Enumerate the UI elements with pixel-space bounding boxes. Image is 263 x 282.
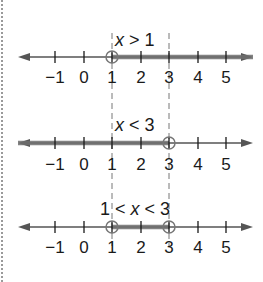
- inequality-label-x-greater-than-1: x > 1: [114, 30, 155, 50]
- tick-label: −1: [45, 68, 64, 87]
- tick-label: 4: [193, 68, 202, 87]
- page-edge-dotted-border: [1, 0, 3, 282]
- tick-label: 1: [107, 238, 116, 257]
- tick-label: 0: [79, 238, 88, 257]
- right-arrow-icon: [241, 223, 253, 231]
- tick-label: 1: [107, 68, 116, 87]
- tick-label: 3: [164, 155, 173, 174]
- tick-label: −1: [45, 155, 64, 174]
- left-arrow-icon: [18, 223, 30, 231]
- tick-label: 5: [221, 68, 230, 87]
- left-arrow-icon: [18, 53, 30, 61]
- tick-label: 4: [193, 238, 202, 257]
- tick-label: 5: [221, 155, 230, 174]
- inequality-label-x-between-1-and-3: 1 < x < 3: [100, 199, 170, 219]
- tick-label: 2: [136, 155, 145, 174]
- tick-label: 1: [107, 155, 116, 174]
- tick-label: −1: [45, 238, 64, 257]
- tick-label: 2: [136, 68, 145, 87]
- tick-label: 3: [164, 238, 173, 257]
- tick-label: 3: [164, 68, 173, 87]
- tick-label: 2: [136, 238, 145, 257]
- tick-label: 0: [79, 155, 88, 174]
- right-arrow-icon: [241, 139, 253, 147]
- number-lines-figure: −1012345x > 1−1012345x < 3−10123451 < x …: [0, 0, 263, 282]
- inequality-number-line-diagram: −1012345x > 1−1012345x < 3−10123451 < x …: [0, 0, 263, 282]
- inequality-label-x-less-than-3: x < 3: [114, 115, 155, 135]
- tick-label: 0: [79, 68, 88, 87]
- tick-label: 4: [193, 155, 202, 174]
- tick-label: 5: [221, 238, 230, 257]
